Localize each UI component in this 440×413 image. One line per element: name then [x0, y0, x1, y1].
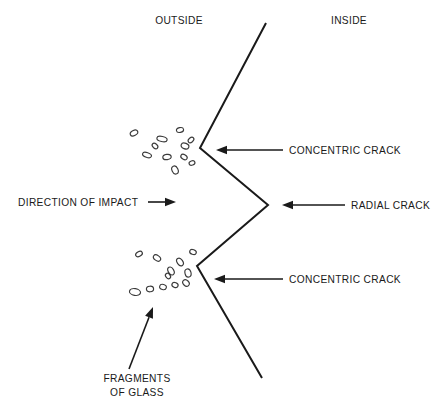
glass-fragment — [152, 254, 162, 263]
glass-fragment — [146, 286, 154, 292]
crack-profile-group — [197, 23, 268, 378]
glass-fracture-diagram: OUTSIDE INSIDE DIRECTION OF IMPACT CONCE… — [0, 0, 440, 413]
diagram-canvas: OUTSIDE INSIDE DIRECTION OF IMPACT CONCE… — [0, 0, 440, 413]
glass-fragment — [129, 129, 139, 137]
glass-fragment — [189, 249, 197, 256]
fragments-of-glass-arrow-head — [145, 307, 153, 319]
glass-fragment — [129, 288, 141, 297]
glass-fragment — [162, 154, 171, 160]
glass-fragment — [151, 142, 159, 149]
glass-fragment — [175, 257, 184, 267]
glass-fragment — [184, 268, 192, 278]
glass-fragment — [142, 151, 152, 158]
zigzag-crack-profile-line — [197, 23, 268, 378]
label-radial-crack: RADIAL CRACK — [351, 200, 430, 211]
label-direction-of-impact: DIRECTION OF IMPACT — [18, 197, 138, 208]
label-fragments-of-glass-line2: OF GLASS — [110, 387, 164, 398]
glass-fragment — [181, 278, 190, 287]
glass-fragment — [156, 135, 167, 142]
glass-fragment — [135, 250, 144, 258]
label-inside: INSIDE — [331, 15, 367, 26]
fragments-of-glass-arrow-line — [129, 317, 149, 369]
radial-crack-arrow-head — [282, 201, 293, 209]
glass-fragment — [171, 165, 180, 175]
glass-fragment — [188, 160, 195, 166]
glass-fragment — [187, 136, 195, 143]
lower-fragment-cluster — [129, 249, 197, 297]
glass-fragment — [180, 153, 188, 161]
label-concentric-crack-lower: CONCENTRIC CRACK — [289, 274, 401, 285]
direction-of-impact-arrow-head — [165, 198, 176, 206]
glass-fragment — [180, 142, 190, 150]
glass-fragment — [159, 284, 167, 291]
label-outside: OUTSIDE — [155, 15, 203, 26]
glass-fragment — [176, 127, 184, 133]
glass-fragment — [171, 281, 179, 288]
upper-fragment-cluster — [129, 127, 195, 175]
concentric-crack-lower-arrow-head — [214, 275, 225, 283]
label-concentric-crack-upper: CONCENTRIC CRACK — [289, 145, 401, 156]
concentric-crack-upper-arrow-head — [216, 146, 227, 154]
label-fragments-of-glass-line1: FRAGMENTS — [103, 373, 170, 384]
